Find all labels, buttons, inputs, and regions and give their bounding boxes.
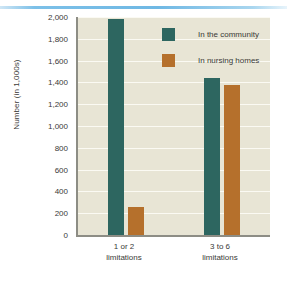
- chart-legend: In the communityIn nursing homes: [162, 28, 270, 80]
- y-tick-label: 400: [0, 187, 68, 196]
- bar: [108, 19, 124, 235]
- y-tick-label: 2,000: [0, 13, 68, 22]
- legend-label: In the community: [198, 30, 259, 39]
- y-tick-label: 1,600: [0, 56, 68, 65]
- gridline: [78, 191, 270, 192]
- gridline: [78, 148, 270, 149]
- legend-item: In nursing homes: [162, 54, 270, 80]
- legend-swatch: [162, 54, 175, 67]
- x-axis-tick-labels: 1 or 2limitations3 to 6limitations: [76, 241, 268, 281]
- x-tick-label-line2: limitations: [76, 252, 172, 263]
- bar: [128, 207, 144, 235]
- legend-swatch: [162, 28, 175, 41]
- gridline: [78, 213, 270, 214]
- plot-inner: In the communityIn nursing homes: [78, 17, 270, 235]
- plot-area: In the communityIn nursing homes: [76, 17, 270, 237]
- y-tick-label: 1,200: [0, 100, 68, 109]
- gridline: [78, 82, 270, 83]
- x-tick-label-line1: 3 to 6: [210, 242, 230, 251]
- legend-label: In nursing homes: [198, 56, 259, 65]
- y-tick-label: 1,400: [0, 78, 68, 87]
- y-tick-label: 200: [0, 209, 68, 218]
- bar: [204, 78, 220, 235]
- y-tick-label: 1,000: [0, 122, 68, 131]
- y-tick-label: 1,800: [0, 34, 68, 43]
- gridline: [78, 126, 270, 127]
- x-tick-label: 3 to 6limitations: [172, 241, 268, 263]
- gridline: [78, 170, 270, 171]
- legend-item: In the community: [162, 28, 270, 54]
- gridline: [78, 17, 270, 18]
- y-tick-label: 600: [0, 165, 68, 174]
- bar-chart-figure: Number (in 1,000s) 02004006008001,0001,2…: [0, 0, 287, 284]
- y-tick-label: 0: [0, 231, 68, 240]
- top-rule-divider: [0, 6, 287, 9]
- bar: [224, 85, 240, 235]
- x-tick-label-line2: limitations: [172, 252, 268, 263]
- y-axis-tick-labels: 02004006008001,0001,2001,4001,6001,8002,…: [0, 17, 72, 235]
- gridline: [78, 104, 270, 105]
- x-tick-label-line1: 1 or 2: [114, 242, 134, 251]
- x-tick-label: 1 or 2limitations: [76, 241, 172, 263]
- y-tick-label: 800: [0, 143, 68, 152]
